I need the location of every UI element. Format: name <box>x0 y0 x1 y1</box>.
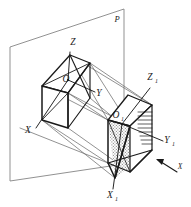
axis-x1-label-sub: 1 <box>115 196 118 202</box>
axis-z1-label-base: Z <box>147 72 153 82</box>
direction-arrow-label: X <box>177 162 183 171</box>
origin-o1-label-sub: 1 <box>121 116 124 122</box>
origin-o1-dot <box>121 123 123 125</box>
axis-z-label: Z <box>70 37 76 47</box>
axis-z1-label-sub: 1 <box>155 78 158 84</box>
origin-o-label: O <box>63 74 70 84</box>
figure-container: P Z O Y X Z 1 O 1 Y 1 X 1 X <box>0 0 191 207</box>
axis-x1-label-base: X <box>106 190 114 200</box>
plane-p-label: P <box>113 14 119 24</box>
axis-y1-label-sub: 1 <box>172 141 175 147</box>
origin-o1-label-base: O <box>113 110 120 120</box>
coordinate-frame-diagram: P Z O Y X Z 1 O 1 Y 1 X 1 X <box>0 0 191 207</box>
axis-x-label: X <box>24 125 32 135</box>
